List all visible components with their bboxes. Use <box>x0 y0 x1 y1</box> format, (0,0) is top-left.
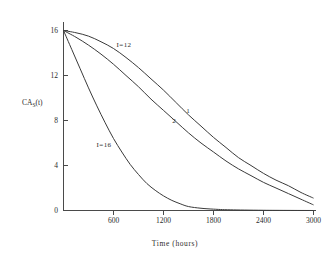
x-axis-title: Time (hours) <box>152 239 198 248</box>
x-tick-label-1800: 1800 <box>206 216 221 225</box>
x-tick-label-2400: 2400 <box>256 216 271 225</box>
y-axis-title-main: CA <box>22 98 33 107</box>
y-tick-label-12: 12 <box>51 71 59 80</box>
y-tick-label-0: 0 <box>54 206 58 215</box>
x-tick-label-3000: 3000 <box>306 216 321 225</box>
annotation-curve-2: 2 <box>172 117 176 125</box>
figure-container: 16 12 8 4 0 600 1200 1800 2400 3000 I=12 <box>0 0 330 258</box>
x-tick-label-600: 600 <box>108 216 120 225</box>
annotation-i12: I=12 <box>117 41 132 49</box>
y-axis-title-tail: (t) <box>35 98 43 107</box>
line-chart: 16 12 8 4 0 600 1200 1800 2400 3000 I=12 <box>0 0 330 258</box>
x-tick-label-1200: 1200 <box>156 216 171 225</box>
y-tick-label-8: 8 <box>54 116 58 125</box>
y-tick-label-16: 16 <box>51 26 59 35</box>
annotation-i16: I=16 <box>97 141 112 149</box>
y-tick-label-4: 4 <box>54 161 58 170</box>
annotation-curve-1: 1 <box>186 107 190 115</box>
